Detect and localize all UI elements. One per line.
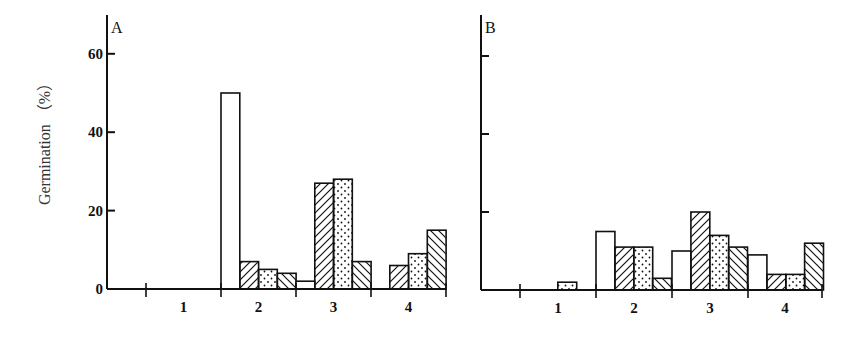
bar-right-hatched-group-2	[615, 247, 634, 290]
bar-left-hatched-group-4	[427, 230, 446, 289]
bar-open-group-3	[672, 251, 691, 290]
x-category-label: 4	[405, 299, 413, 315]
bar-open-group-2	[221, 93, 240, 289]
bar-left-hatched-group-2	[277, 273, 296, 289]
x-category-label: 1	[554, 300, 562, 316]
bar-right-hatched-group-2	[240, 262, 259, 289]
y-tick-label: 60	[88, 46, 103, 62]
x-category-label: 2	[630, 300, 638, 316]
bar-left-hatched-group-3	[352, 262, 371, 289]
bar-dotted-group-3	[334, 179, 353, 289]
bar-left-hatched-group-2	[653, 278, 672, 290]
x-category-label: 2	[255, 299, 263, 315]
bar-open-group-2	[596, 232, 615, 291]
y-tick-label: 20	[88, 203, 103, 219]
bar-dotted-group-1	[558, 282, 577, 290]
x-category-label: 1	[180, 299, 188, 315]
x-category-label: 4	[781, 300, 789, 316]
y-tick-label: 0	[96, 281, 104, 297]
y-tick-label: 40	[88, 124, 103, 140]
bar-right-hatched-group-3	[691, 212, 710, 290]
bar-left-hatched-group-3	[729, 247, 748, 290]
panel-b: 1234B	[481, 15, 824, 316]
bar-right-hatched-group-3	[315, 183, 334, 289]
bar-right-hatched-group-4	[390, 266, 409, 290]
germination-chart: Germination （%） 02040601234A 1234B	[0, 0, 857, 339]
bar-dotted-group-3	[710, 235, 729, 290]
panel-label-a: A	[111, 19, 123, 36]
bar-open-group-4	[748, 255, 767, 290]
bar-dotted-group-4	[786, 274, 805, 290]
bar-open-group-3	[296, 281, 315, 289]
bar-right-hatched-group-4	[767, 274, 786, 290]
panel-label-b: B	[485, 19, 496, 36]
bar-dotted-group-2	[259, 269, 278, 289]
y-axis-title: Germination （%）	[36, 75, 53, 205]
bar-dotted-group-4	[409, 254, 428, 289]
panel-a: 02040601234A	[88, 15, 446, 315]
bar-left-hatched-group-4	[805, 243, 824, 290]
x-category-label: 3	[706, 300, 714, 316]
bar-dotted-group-2	[634, 247, 653, 290]
x-category-label: 3	[330, 299, 338, 315]
